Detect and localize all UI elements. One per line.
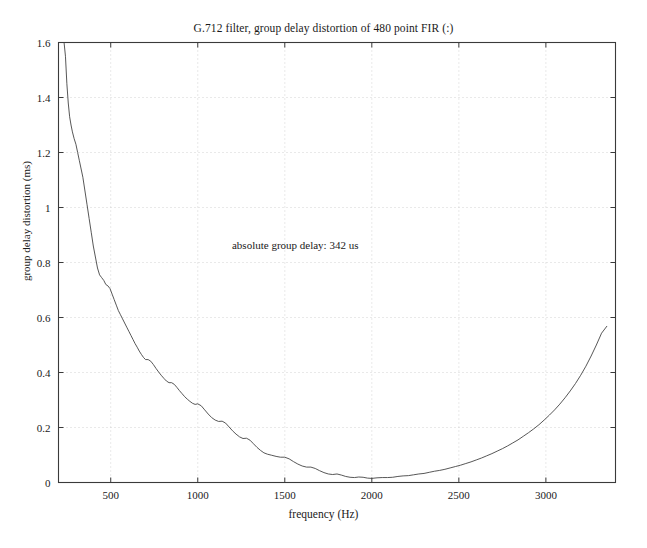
x-tick-label: 1500 [274, 489, 296, 501]
x-tick-label: 3000 [535, 489, 557, 501]
y-tick-label: 0.8 [4, 257, 51, 269]
y-tick-label: 0 [4, 477, 51, 489]
chart-annotation: absolute group delay: 342 us [185, 239, 405, 251]
figure-canvas: G.712 filter, group delay distortion of … [0, 0, 647, 548]
x-tick-label: 2000 [361, 489, 383, 501]
y-tick-label: 1.4 [4, 92, 51, 104]
x-tick-label: 2500 [448, 489, 470, 501]
data-line-group-delay-distortion [63, 43, 607, 479]
plot-area [0, 0, 647, 548]
y-tick-label: 1.6 [4, 37, 51, 49]
axis-frame [59, 43, 616, 483]
y-tick-label: 0.2 [4, 422, 51, 434]
y-tick-label: 1.2 [4, 147, 51, 159]
y-tick-label: 1 [4, 202, 51, 214]
x-tick-label: 1000 [187, 489, 209, 501]
y-tick-label: 0.4 [4, 367, 51, 379]
x-tick-label: 500 [102, 489, 119, 501]
y-tick-label: 0.6 [4, 312, 51, 324]
